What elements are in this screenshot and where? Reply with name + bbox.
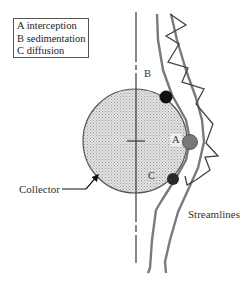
legend-item-sedimentation: B sedimentation: [17, 33, 88, 46]
legend-item-diffusion: C diffusion: [17, 45, 88, 58]
collector-pointer-arrow: [62, 175, 98, 189]
label-c: C: [148, 170, 155, 181]
particle-a-interception: [183, 135, 198, 150]
particle-b-sedimentation: [160, 91, 173, 104]
label-b: B: [144, 68, 151, 79]
legend: A interception B sedimentation C diffusi…: [13, 18, 89, 58]
label-a: A: [170, 133, 182, 147]
legend-item-interception: A interception: [17, 20, 88, 33]
label-collector: Collector: [19, 183, 60, 195]
particle-c-diffusion: [167, 173, 179, 185]
label-streamlines: Streamlines: [188, 208, 240, 220]
